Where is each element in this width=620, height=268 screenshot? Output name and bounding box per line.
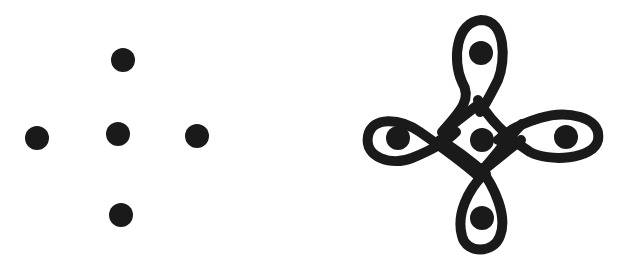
kolam-dot-center [470, 128, 494, 152]
grid-dot-right [185, 124, 209, 148]
grid-dot-bottom [109, 203, 133, 227]
kolam-dots [386, 41, 578, 230]
kolam-dot-left [386, 126, 410, 150]
dot-grid-panel [25, 48, 209, 227]
kolam-figure [0, 0, 620, 268]
grid-dot-center [106, 122, 130, 146]
kolam-dot-top [469, 41, 493, 65]
grid-dot-left [25, 126, 49, 150]
kolam-pattern-panel [368, 20, 599, 250]
grid-dot-top [111, 48, 135, 72]
kolam-dot-bottom [470, 206, 494, 230]
kolam-dot-right [554, 125, 578, 149]
